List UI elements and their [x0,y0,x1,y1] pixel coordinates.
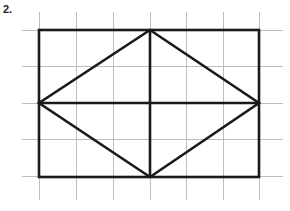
figure-layer [39,30,259,177]
figure-container: 2. [0,0,290,211]
grid-layer [22,12,283,200]
geometry-figure-svg [0,0,290,211]
